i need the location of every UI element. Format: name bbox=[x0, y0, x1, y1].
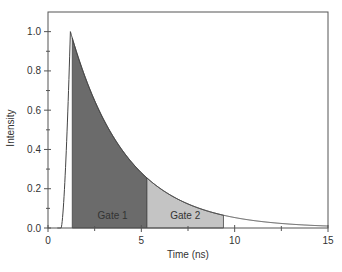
gate-2-label: Gate 2 bbox=[170, 210, 200, 221]
gate-1-area bbox=[72, 38, 147, 228]
decay-chart: 051015 0.00.20.40.60.81.0 Gate 1 Gate 2 … bbox=[0, 0, 342, 272]
y-tick-label: 0.2 bbox=[27, 183, 41, 194]
gate-1-label: Gate 1 bbox=[98, 210, 128, 221]
y-axis-label: Intensity bbox=[5, 109, 16, 146]
y-tick-label: 1.0 bbox=[27, 26, 41, 37]
y-tick-label: 0.0 bbox=[27, 223, 41, 234]
x-axis-label: Time (ns) bbox=[167, 249, 209, 260]
x-tick-label: 10 bbox=[229, 235, 241, 246]
x-tick-label: 0 bbox=[45, 235, 51, 246]
x-tick-label: 15 bbox=[322, 235, 334, 246]
y-axis-ticks: 0.00.20.40.60.81.0 bbox=[27, 26, 51, 233]
y-tick-label: 0.8 bbox=[27, 65, 41, 76]
x-tick-label: 5 bbox=[139, 235, 145, 246]
y-tick-label: 0.6 bbox=[27, 105, 41, 116]
y-tick-label: 0.4 bbox=[27, 144, 41, 155]
gate-regions bbox=[72, 38, 223, 228]
